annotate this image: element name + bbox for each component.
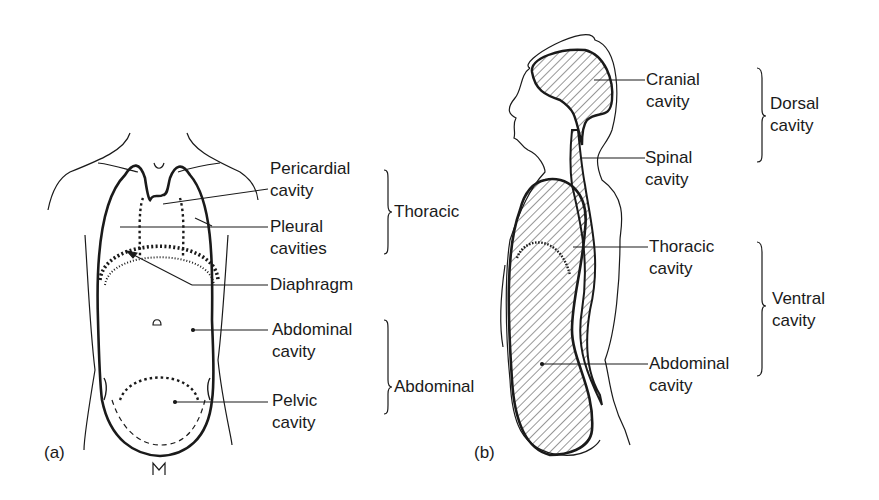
front-view-leader-lines (120, 189, 268, 404)
label-pleural-cavities: Pleural cavities (270, 216, 327, 260)
label-abdominal-cavity-a: Abdominal cavity (272, 319, 352, 363)
label-line: Thoracic (649, 236, 714, 258)
front-view-figure (48, 133, 258, 475)
panel-a-tag: (a) (44, 442, 65, 464)
label-line: Spinal (645, 147, 692, 169)
front-view-braces (384, 170, 392, 414)
label-line: Ventral (772, 288, 825, 310)
label-line: cavity (272, 341, 352, 363)
label-line: cavities (270, 238, 327, 260)
group-label-thoracic: Thoracic (394, 201, 459, 223)
label-line: Pleural (270, 216, 327, 238)
label-line: (a) (44, 442, 65, 464)
label-spinal-cavity: Spinal cavity (645, 147, 692, 191)
label-line: cavity (772, 310, 825, 332)
label-line: cavity (770, 115, 819, 137)
label-line: (b) (474, 442, 495, 464)
label-line: cavity (645, 169, 692, 191)
label-pelvic-cavity: Pelvic cavity (272, 390, 317, 434)
body-cavities-diagram (0, 0, 879, 500)
label-pericardial-cavity: Pericardial cavity (270, 158, 350, 202)
label-line: Pericardial (270, 158, 350, 180)
label-thoracic-cavity: Thoracic cavity (649, 236, 714, 280)
label-line: Abdominal (394, 376, 474, 398)
group-label-abdominal: Abdominal (394, 376, 474, 398)
label-line: Abdominal (649, 353, 729, 375)
label-line: Dorsal (770, 93, 819, 115)
label-line: cavity (646, 91, 700, 113)
label-line: Pelvic (272, 390, 317, 412)
label-line: Cranial (646, 69, 700, 91)
side-view-figure (506, 35, 630, 456)
label-line: cavity (270, 180, 350, 202)
group-label-dorsal-cavity: Dorsal cavity (770, 93, 819, 137)
label-line: cavity (649, 258, 714, 280)
label-line: Abdominal (272, 319, 352, 341)
label-cranial-cavity: Cranial cavity (646, 69, 700, 113)
group-label-ventral-cavity: Ventral cavity (772, 288, 825, 332)
label-line: Diaphragm (270, 274, 353, 296)
label-line: cavity (649, 375, 729, 397)
label-line: Thoracic (394, 201, 459, 223)
label-line: cavity (272, 412, 317, 434)
panel-b-tag: (b) (474, 442, 495, 464)
label-diaphragm: Diaphragm (270, 274, 353, 296)
label-abdominal-cavity-b: Abdominal cavity (649, 353, 729, 397)
